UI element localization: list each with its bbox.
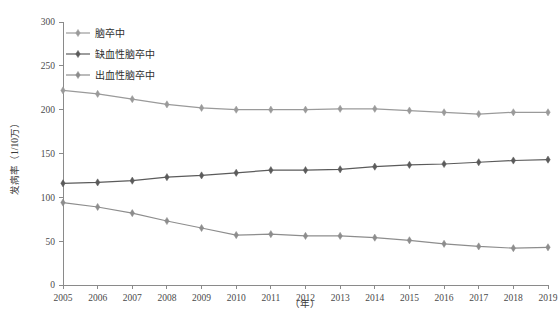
legend-item-1[interactable]: 脑卒中 xyxy=(66,27,125,39)
data-point-marker xyxy=(234,106,238,113)
data-point-marker xyxy=(199,104,203,111)
y-tick-label: 0 xyxy=(50,280,55,290)
data-point-marker xyxy=(373,105,377,112)
legend-item-3[interactable]: 出血性脑卒中 xyxy=(66,69,155,81)
data-point-marker xyxy=(407,237,411,244)
y-tick-labels: 050100150200250300 xyxy=(41,17,56,290)
x-tick-label: 2007 xyxy=(123,293,142,303)
chart-canvas: 050100150200250300 200520062007200820092… xyxy=(0,0,559,326)
data-point-marker xyxy=(165,217,169,224)
data-point-marker xyxy=(476,159,480,166)
data-point-marker xyxy=(234,231,238,238)
series-line xyxy=(63,203,548,249)
data-point-marker xyxy=(338,105,342,112)
data-point-marker xyxy=(269,231,273,238)
data-point-marker xyxy=(476,243,480,250)
legend-label: 脑卒中 xyxy=(95,27,125,39)
x-tick-label: 2011 xyxy=(262,293,281,303)
series-2 xyxy=(61,156,550,187)
data-point-marker xyxy=(442,109,446,116)
data-point-marker xyxy=(269,167,273,174)
data-point-marker xyxy=(338,166,342,173)
data-point-marker xyxy=(61,199,65,206)
data-point-marker xyxy=(130,210,134,217)
series-1 xyxy=(61,87,550,118)
data-point-marker xyxy=(130,177,134,184)
y-tick-label: 300 xyxy=(41,17,56,27)
series-group xyxy=(61,87,550,252)
x-tick-label: 2010 xyxy=(227,293,246,303)
data-point-marker xyxy=(442,240,446,247)
legend-item-2[interactable]: 缺血性脑卒中 xyxy=(66,48,155,60)
data-point-marker xyxy=(95,179,99,186)
data-point-marker xyxy=(61,180,65,187)
x-tick-label: 2019 xyxy=(539,293,558,303)
data-point-marker xyxy=(303,106,307,113)
data-point-marker xyxy=(546,109,550,116)
legend-marker-icon xyxy=(76,29,80,36)
data-point-marker xyxy=(61,87,65,94)
x-tick-label: 2009 xyxy=(192,293,211,303)
legend-label: 缺血性脑卒中 xyxy=(95,48,155,60)
x-axis xyxy=(63,285,548,289)
data-point-marker xyxy=(373,163,377,170)
data-point-marker xyxy=(476,110,480,117)
data-point-marker xyxy=(511,157,515,164)
data-point-marker xyxy=(199,172,203,179)
chart-legend: 脑卒中缺血性脑卒中出血性脑卒中 xyxy=(66,27,155,81)
y-tick-label: 50 xyxy=(46,237,56,247)
data-point-marker xyxy=(511,109,515,116)
x-tick-label: 2016 xyxy=(435,293,454,303)
legend-marker-icon xyxy=(76,50,80,57)
y-tick-label: 250 xyxy=(41,61,56,71)
legend-marker-icon xyxy=(76,71,80,78)
incidence-rate-line-chart: 050100150200250300 200520062007200820092… xyxy=(0,0,559,326)
data-point-marker xyxy=(338,232,342,239)
data-point-marker xyxy=(407,107,411,114)
x-tick-label: 2018 xyxy=(504,293,523,303)
legend-label: 出血性脑卒中 xyxy=(95,69,155,81)
data-point-marker xyxy=(199,224,203,231)
data-point-marker xyxy=(546,244,550,251)
y-tick-label: 100 xyxy=(41,193,56,203)
y-tick-label: 200 xyxy=(41,105,56,115)
y-axis-title: 发病率（1/10万） xyxy=(9,118,20,195)
x-axis-title: （年） xyxy=(290,298,320,309)
data-point-marker xyxy=(442,160,446,167)
x-tick-label: 2013 xyxy=(331,293,350,303)
data-point-marker xyxy=(165,174,169,181)
data-point-marker xyxy=(546,156,550,163)
series-3 xyxy=(61,199,550,252)
x-tick-label: 2006 xyxy=(88,293,107,303)
x-tick-label: 2014 xyxy=(365,293,384,303)
x-tick-label: 2017 xyxy=(469,293,488,303)
data-point-marker xyxy=(303,232,307,239)
data-point-marker xyxy=(303,167,307,174)
data-point-marker xyxy=(234,169,238,176)
x-tick-group xyxy=(63,285,548,289)
x-tick-label: 2015 xyxy=(400,293,419,303)
y-tick-group xyxy=(59,22,63,285)
data-point-marker xyxy=(130,96,134,103)
data-point-marker xyxy=(511,245,515,252)
y-tick-label: 150 xyxy=(41,149,56,159)
x-tick-label: 2008 xyxy=(157,293,176,303)
data-point-marker xyxy=(165,101,169,108)
y-axis xyxy=(59,22,63,285)
data-point-marker xyxy=(269,106,273,113)
data-point-marker xyxy=(373,234,377,241)
data-point-marker xyxy=(95,203,99,210)
data-point-marker xyxy=(95,90,99,97)
x-tick-label: 2005 xyxy=(54,293,73,303)
data-point-marker xyxy=(407,161,411,168)
